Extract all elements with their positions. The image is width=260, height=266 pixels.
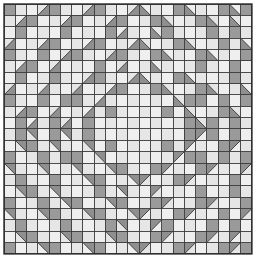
- quilt-cell: [60, 72, 71, 83]
- quilt-cell: [60, 243, 71, 254]
- quilt-cell: [162, 72, 173, 83]
- quilt-cell: [72, 186, 83, 197]
- quilt-cell: [218, 38, 229, 49]
- quilt-cell: [218, 61, 229, 72]
- quilt-cell: [184, 61, 195, 72]
- quilt-cell: [162, 106, 173, 117]
- quilt-cell: [184, 197, 195, 208]
- quilt-cell: [4, 27, 15, 38]
- quilt-cell: [139, 84, 150, 95]
- quilt-cell: [173, 15, 184, 26]
- quilt-cell: [105, 152, 116, 163]
- quilt-cell: [162, 208, 173, 219]
- quilt-cell: [94, 106, 105, 117]
- quilt-cell: [38, 197, 49, 208]
- quilt-cell: [184, 220, 195, 231]
- quilt-cell: [60, 152, 71, 163]
- quilt-cell: [229, 152, 240, 163]
- quilt-cell: [128, 129, 139, 140]
- quilt-cell: [60, 27, 71, 38]
- quilt-cell: [207, 95, 218, 106]
- quilt-cell: [38, 15, 49, 26]
- quilt-cell: [162, 152, 173, 163]
- quilt-cell: [117, 72, 128, 83]
- quilt-cell: [15, 95, 26, 106]
- quilt-cell: [162, 38, 173, 49]
- quilt-cell: [94, 38, 105, 49]
- quilt-cell: [151, 152, 162, 163]
- quilt-cell: [184, 49, 195, 60]
- quilt-cell: [218, 95, 229, 106]
- quilt-cell: [105, 27, 116, 38]
- quilt-cell: [162, 174, 173, 185]
- quilt-cell: [151, 38, 162, 49]
- quilt-cell: [15, 220, 26, 231]
- quilt-cell: [173, 220, 184, 231]
- quilt-cell: [128, 220, 139, 231]
- quilt-cell: [218, 84, 229, 95]
- quilt-cell: [128, 106, 139, 117]
- quilt-cell: [38, 140, 49, 151]
- quilt-cell: [72, 152, 83, 163]
- quilt-cell: [229, 38, 240, 49]
- quilt-cell: [117, 197, 128, 208]
- quilt-pattern-page: [0, 0, 260, 266]
- quilt-cell: [27, 84, 38, 95]
- quilt-cell: [173, 197, 184, 208]
- quilt-cell: [38, 118, 49, 129]
- quilt-cell: [15, 129, 26, 140]
- quilt-cell: [241, 15, 252, 26]
- quilt-cell: [241, 49, 252, 60]
- quilt-cell: [49, 129, 60, 140]
- quilt-cell: [27, 27, 38, 38]
- quilt-cell: [241, 72, 252, 83]
- quilt-cell: [4, 72, 15, 83]
- quilt-cell: [139, 61, 150, 72]
- quilt-cell: [218, 106, 229, 117]
- quilt-cell: [151, 49, 162, 60]
- quilt-cell: [173, 72, 184, 83]
- quilt-cell: [4, 95, 15, 106]
- quilt-cell: [117, 118, 128, 129]
- quilt-cell: [128, 163, 139, 174]
- quilt-cell: [218, 197, 229, 208]
- quilt-cell: [151, 118, 162, 129]
- quilt-cell: [229, 174, 240, 185]
- quilt-cell: [27, 4, 38, 15]
- quilt-cell: [105, 186, 116, 197]
- quilt-cell: [49, 15, 60, 26]
- quilt-cell: [4, 231, 15, 242]
- quilt-cell: [184, 152, 195, 163]
- quilt-cell: [60, 84, 71, 95]
- quilt-cell: [173, 129, 184, 140]
- quilt-cell: [117, 15, 128, 26]
- quilt-cell: [173, 27, 184, 38]
- quilt-cell: [117, 95, 128, 106]
- quilt-cell: [117, 243, 128, 254]
- quilt-cell: [72, 72, 83, 83]
- quilt-cell: [151, 197, 162, 208]
- quilt-cell: [83, 231, 94, 242]
- quilt-cell: [207, 27, 218, 38]
- quilt-cell: [105, 243, 116, 254]
- quilt-cell: [139, 118, 150, 129]
- quilt-cell: [105, 72, 116, 83]
- quilt-cell: [117, 163, 128, 174]
- quilt-cell: [128, 15, 139, 26]
- quilt-cell: [27, 220, 38, 231]
- quilt-cell: [49, 49, 60, 60]
- quilt-cell: [151, 208, 162, 219]
- quilt-cell: [15, 152, 26, 163]
- quilt-cell: [139, 27, 150, 38]
- quilt-cell: [207, 174, 218, 185]
- quilt-cell: [207, 106, 218, 117]
- quilt-cell: [105, 118, 116, 129]
- quilt-cell: [162, 95, 173, 106]
- quilt-cell: [196, 27, 207, 38]
- quilt-cell: [83, 163, 94, 174]
- quilt-cell: [151, 84, 162, 95]
- quilt-cell: [4, 186, 15, 197]
- quilt-cell: [83, 27, 94, 38]
- quilt-cell: [49, 231, 60, 242]
- quilt-cell: [49, 152, 60, 163]
